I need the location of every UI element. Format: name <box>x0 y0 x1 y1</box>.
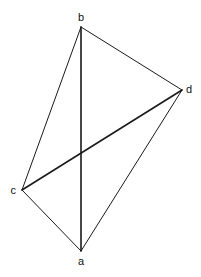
edges-group <box>22 27 182 251</box>
vertex-label-a: a <box>78 255 85 267</box>
edge-c-a <box>22 190 81 251</box>
labels-group: a b c d <box>11 11 193 267</box>
edge-b-c <box>22 27 81 190</box>
quadrilateral-diagram: a b c d <box>0 0 201 277</box>
vertex-label-c: c <box>11 184 17 196</box>
edge-d-a <box>81 90 182 251</box>
vertex-label-d: d <box>186 83 192 95</box>
diagonal-c-d <box>22 90 182 190</box>
vertex-label-b: b <box>78 11 84 23</box>
edge-b-d <box>81 27 182 90</box>
